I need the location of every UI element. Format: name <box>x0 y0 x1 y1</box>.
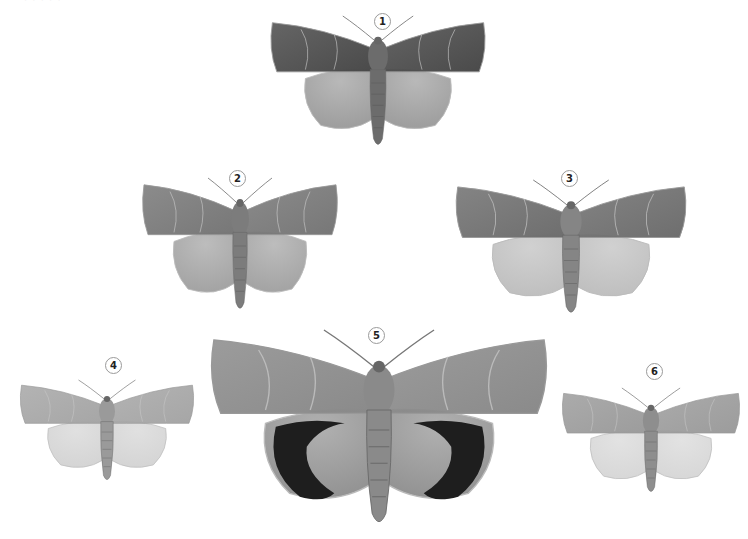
moth-illustration <box>207 330 551 530</box>
cropped-header-text: · · · · · <box>24 0 62 5</box>
specimen-number-label: 4 <box>105 357 122 374</box>
moth-icon <box>268 16 488 150</box>
moth-icon <box>18 380 196 484</box>
moth-illustration-plate: · · · · · 123456 <box>0 0 748 539</box>
moth-icon <box>207 330 551 530</box>
moth-illustration <box>18 380 196 484</box>
moth-icon <box>453 180 689 318</box>
moth-illustration <box>560 388 742 496</box>
moth-illustration <box>268 16 488 150</box>
moth-illustration <box>453 180 689 318</box>
moth-illustration <box>140 178 340 314</box>
moth-icon <box>560 388 742 496</box>
specimen-number-label: 6 <box>646 363 663 380</box>
moth-icon <box>140 178 340 314</box>
